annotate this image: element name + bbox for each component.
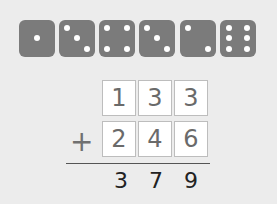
addend1-hundreds: 1 <box>102 80 136 116</box>
die-1 <box>19 20 55 57</box>
plus-sign: + <box>70 128 93 156</box>
addend1-ones: 3 <box>174 80 208 116</box>
addend2-ones: 6 <box>174 121 208 157</box>
die-3b <box>139 20 175 57</box>
addend1-tens: 3 <box>138 80 172 116</box>
sum-line <box>66 163 210 164</box>
die-2 <box>180 20 216 57</box>
addend2-tens: 4 <box>138 121 172 157</box>
die-3 <box>59 20 95 57</box>
sum-hundreds: 3 <box>104 168 138 193</box>
sum-tens: 7 <box>139 168 173 193</box>
die-4 <box>99 20 135 57</box>
addend2-hundreds: 2 <box>102 121 136 157</box>
die-6 <box>220 20 256 57</box>
sum-ones: 9 <box>174 168 208 193</box>
